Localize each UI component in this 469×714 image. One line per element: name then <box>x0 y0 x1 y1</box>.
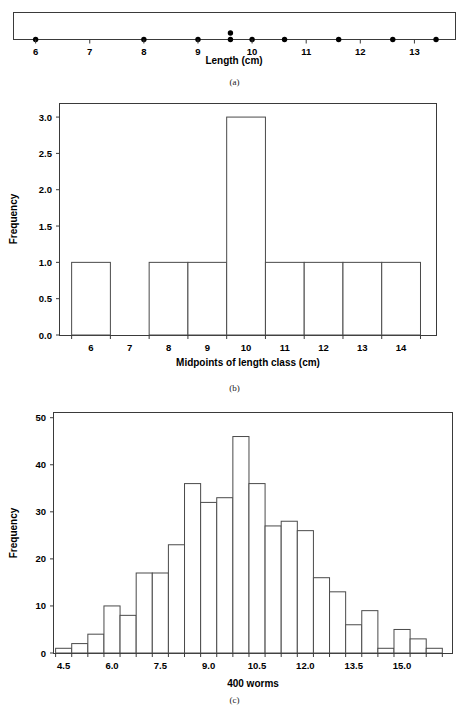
histogram-b-x-tick-label: 6 <box>88 342 93 353</box>
dotplot-tick-label: 13 <box>409 46 420 57</box>
histogram-b-x-tick-label: 14 <box>396 342 407 353</box>
histogram-c-bar <box>362 611 378 653</box>
histogram-c-bar <box>72 644 88 653</box>
histogram-c-bar <box>185 484 201 653</box>
dotplot-tick-label: 8 <box>141 46 146 57</box>
histogram-b-y-tick-label: 2.5 <box>39 148 53 159</box>
histogram-c-bars <box>56 437 443 653</box>
histogram-b-y-tick-label: 1.5 <box>39 221 53 232</box>
dotplot-x-axis-label: Length (cm) <box>205 55 262 66</box>
panel-b-histogram: 67891011121314 0.00.51.01.52.02.53.0 Mid… <box>0 95 469 400</box>
histogram-c-y-tick-label: 40 <box>35 459 46 470</box>
dotplot-x-ticks <box>36 40 415 44</box>
histogram-c-bar <box>152 573 168 653</box>
histogram-c-x-tick-label: 6.0 <box>105 660 118 671</box>
statistics-figure: 678910111213 Length (cm) (a) 67891011121… <box>0 0 469 714</box>
histogram-c-bar <box>378 648 394 653</box>
dotplot-dot <box>228 30 233 35</box>
histogram-b-y-axis-label: Frequency <box>8 193 19 244</box>
histogram-c-bar <box>217 498 233 653</box>
histogram-b-bar <box>149 262 188 335</box>
histogram-c-bar <box>297 531 313 653</box>
histogram-c-x-tick-label: 4.5 <box>57 660 71 671</box>
histogram-c-bar <box>426 648 442 653</box>
histogram-b-bars <box>72 117 421 335</box>
histogram-b-bar <box>382 262 421 335</box>
histogram-c-bar <box>410 639 426 653</box>
histogram-c-bar <box>120 615 136 653</box>
dotplot-tick-label: 7 <box>87 46 92 57</box>
histogram-c-bar <box>346 625 362 653</box>
dotplot-dot <box>228 37 233 42</box>
dotplot-frame <box>14 13 456 40</box>
dotplot-dot <box>336 37 341 42</box>
histogram-c-bar <box>136 573 152 653</box>
histogram-c-y-axis-label: Frequency <box>8 507 19 558</box>
histogram-c-bar <box>201 502 217 653</box>
histogram-c-bar <box>56 648 72 653</box>
histogram-c-bar <box>313 578 329 653</box>
histogram-c-y-tick-label: 10 <box>35 600 46 611</box>
dotplot-tick-label: 12 <box>355 46 366 57</box>
histogram-c-x-tick-label: 12.0 <box>296 660 315 671</box>
histogram-b-svg: 67891011121314 0.00.51.01.52.02.53.0 Mid… <box>0 95 469 400</box>
dotplot-dots <box>33 30 439 42</box>
histogram-c-bar <box>265 526 281 653</box>
dotplot-tick-label: 6 <box>33 46 38 57</box>
panel-a-dotplot: 678910111213 Length (cm) (a) <box>0 0 469 95</box>
histogram-c-bar <box>281 521 297 653</box>
histogram-c-y-tick-label: 20 <box>35 553 46 564</box>
histogram-c-bar <box>88 634 104 653</box>
histogram-c-bar <box>104 606 120 653</box>
dotplot-dot <box>282 37 287 42</box>
histogram-c-x-tick-label: 10.5 <box>248 660 267 671</box>
histogram-c-x-axis-label: 400 worms <box>227 678 279 689</box>
histogram-b-x-tick-label: 11 <box>280 342 291 353</box>
histogram-b-x-tick-label: 9 <box>205 342 210 353</box>
histogram-c-x-tick-label: 13.5 <box>344 660 363 671</box>
histogram-c-bar <box>330 592 346 653</box>
histogram-c-y-tick-label: 30 <box>35 506 46 517</box>
histogram-b-x-tick-label: 8 <box>166 342 171 353</box>
dotplot-tick-label: 9 <box>195 46 200 57</box>
panel-a-caption: (a) <box>0 77 469 87</box>
histogram-b-x-ticklabels: 67891011121314 <box>88 342 407 353</box>
histogram-b-y-tick-label: 0.5 <box>39 293 53 304</box>
histogram-b-y-tick-label: 3.0 <box>39 112 52 123</box>
histogram-b-bar <box>265 262 304 335</box>
histogram-c-bar <box>249 484 265 653</box>
histogram-b-y-ticklabels: 0.00.51.01.52.02.53.0 <box>39 112 53 341</box>
histogram-c-bar <box>168 545 184 653</box>
histogram-c-bar <box>233 437 249 653</box>
histogram-c-y-ticklabels: 01020304050 <box>35 412 46 658</box>
histogram-b-bar <box>343 262 382 335</box>
histogram-c-bar <box>394 629 410 653</box>
histogram-b-y-tick-label: 1.0 <box>39 257 52 268</box>
histogram-b-bar <box>227 117 266 335</box>
histogram-b-x-axis-label: Midpoints of length class (cm) <box>176 357 320 368</box>
histogram-b-x-tick-label: 7 <box>127 342 132 353</box>
histogram-b-y-tick-label: 2.0 <box>39 184 52 195</box>
panel-c-histogram: 4.56.07.59.010.512.013.515.0 01020304050… <box>0 400 469 714</box>
histogram-c-x-tick-label: 9.0 <box>202 660 215 671</box>
histogram-b-y-tick-label: 0.0 <box>39 330 52 341</box>
dotplot-tick-label: 11 <box>301 46 312 57</box>
histogram-b-bar <box>304 262 343 335</box>
dotplot-dot <box>433 37 438 42</box>
histogram-c-x-tick-label: 7.5 <box>154 660 168 671</box>
histogram-b-bar <box>72 262 111 335</box>
panel-b-caption: (b) <box>0 383 469 393</box>
histogram-c-y-tick-label: 50 <box>35 412 46 423</box>
panel-c-caption: (c) <box>0 695 469 705</box>
histogram-c-y-tick-label: 0 <box>41 648 46 659</box>
histogram-b-x-tick-label: 13 <box>357 342 368 353</box>
histogram-b-x-tick-label: 10 <box>241 342 252 353</box>
histogram-b-x-tick-label: 12 <box>318 342 329 353</box>
histogram-c-x-tick-label: 15.0 <box>393 660 412 671</box>
histogram-b-bar <box>188 262 227 335</box>
histogram-c-svg: 4.56.07.59.010.512.013.515.0 01020304050… <box>0 400 469 714</box>
histogram-c-x-ticklabels: 4.56.07.59.010.512.013.515.0 <box>57 660 411 671</box>
dotplot-dot <box>390 37 395 42</box>
